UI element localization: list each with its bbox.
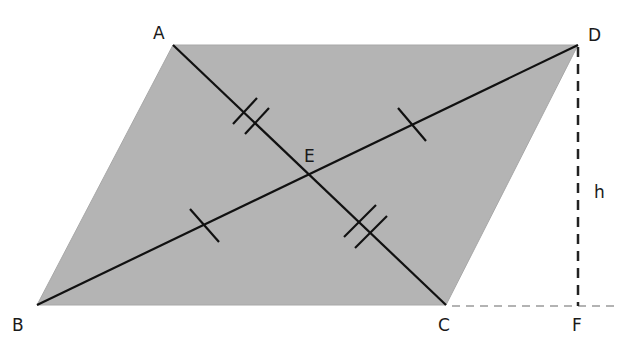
- parallelogram-diagram: A D B C E F h: [0, 0, 618, 347]
- label-C: C: [438, 315, 450, 335]
- label-h: h: [594, 182, 605, 202]
- label-E: E: [304, 146, 315, 166]
- label-F: F: [572, 315, 582, 335]
- label-B: B: [12, 315, 24, 335]
- label-A: A: [153, 23, 165, 43]
- label-D: D: [588, 25, 601, 45]
